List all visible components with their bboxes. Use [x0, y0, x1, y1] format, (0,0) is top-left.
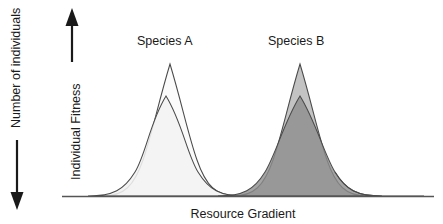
y-axis-inner-label: Individual Fitness [69, 83, 83, 180]
y-axis-inner-group: Individual Fitness [66, 8, 84, 180]
x-axis-label: Resource Gradient [191, 207, 296, 221]
curves-group [88, 64, 424, 196]
curve-species-a-fitness [88, 96, 245, 196]
series-label-species-b: Species B [268, 34, 324, 48]
series-label-species-a: Species A [137, 34, 193, 48]
curve-species-b-fitness [218, 96, 382, 196]
down-arrow-icon [11, 140, 24, 210]
resource-gradient-chart: Number of individuals Individual Fitness [0, 0, 443, 224]
up-arrow-icon [66, 8, 79, 62]
figure-root: Number of individuals Individual Fitness [0, 0, 443, 224]
y-axis-outer-label: Number of individuals [9, 8, 23, 128]
y-axis-outer-group: Number of individuals [9, 8, 23, 210]
